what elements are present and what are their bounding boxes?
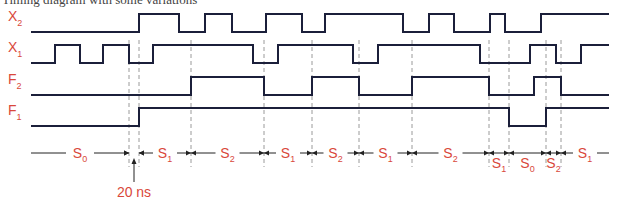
signal-trace-f1 [31, 108, 609, 126]
state-segment: S1 [561, 145, 609, 164]
arrowhead [139, 151, 144, 156]
signal-label-subscript: 2 [17, 18, 22, 28]
arrowhead [556, 151, 561, 156]
state-segment: S2 [191, 145, 264, 164]
timing-annotation: 20 ns [117, 151, 151, 201]
state-segment: S1 [264, 145, 312, 164]
timing-diagram: X2X1F2F1 S0S1S2S1S2S1S2S1S0S2S1 20 ns [0, 0, 629, 201]
arrowhead [407, 151, 412, 156]
state-segment: S1 [359, 145, 412, 164]
state-segment: S2 [312, 145, 359, 164]
state-label: S0 [73, 145, 87, 164]
signal-label-subscript: 1 [17, 112, 22, 122]
signal-label-subscript: 2 [17, 81, 22, 91]
arrowhead [312, 151, 317, 156]
signal-label: X1 [8, 39, 22, 59]
arrowhead [354, 151, 359, 156]
state-label-subscript: 1 [501, 164, 506, 174]
signal-trace-x1 [31, 45, 609, 63]
state-label: S2 [328, 145, 342, 164]
arrowhead [259, 151, 264, 156]
state-label: S1 [378, 145, 392, 164]
arrowhead [504, 151, 509, 156]
state-label: S1 [578, 145, 592, 164]
state-label: S1 [281, 145, 295, 164]
state-label: S0 [520, 155, 534, 174]
signal-trace-f2 [31, 77, 609, 95]
state-segment: S1 [139, 145, 191, 164]
arrowhead [412, 151, 417, 156]
state-label-subscript: 1 [290, 154, 295, 164]
state-label-subscript: 0 [530, 164, 535, 174]
arrowhead [561, 151, 566, 156]
state-label: S2 [443, 145, 457, 164]
signal-labels: X2X1F2F1 [8, 8, 22, 122]
guide-lines [129, 40, 561, 167]
state-segment: S2 [546, 151, 561, 175]
state-label: S2 [220, 145, 234, 164]
signal-trace-x2 [31, 14, 609, 32]
arrowhead [484, 151, 489, 156]
arrowhead [307, 151, 312, 156]
signal-label-subscript: 1 [17, 49, 22, 59]
arrowhead [541, 151, 546, 156]
annotation-label: 20 ns [117, 184, 151, 200]
annotation-arrowhead [132, 158, 137, 164]
state-label: S2 [546, 155, 560, 174]
signal-traces [31, 14, 609, 126]
state-label-subscript: 2 [556, 164, 561, 174]
signal-label: X2 [8, 8, 22, 28]
state-label-subscript: 1 [388, 154, 393, 164]
arrowhead [191, 151, 196, 156]
arrowhead [186, 151, 191, 156]
signal-label: F2 [8, 71, 22, 91]
state-row: S0S1S2S1S2S1S2S1S0S2S1 [31, 145, 609, 174]
state-segment: S1 [489, 151, 509, 175]
state-label-subscript: 2 [230, 154, 235, 164]
state-label-subscript: 1 [587, 154, 592, 164]
state-label-subscript: 2 [338, 154, 343, 164]
state-segment: S0 [509, 151, 546, 175]
arrowhead [124, 151, 129, 156]
state-label: S1 [158, 145, 172, 164]
state-label-subscript: 1 [167, 154, 172, 164]
arrowhead [359, 151, 364, 156]
arrowhead [509, 151, 514, 156]
state-segment: S2 [412, 145, 489, 164]
signal-label: F1 [8, 102, 22, 122]
state-label-subscript: 2 [453, 154, 458, 164]
state-segment: S0 [31, 145, 129, 164]
state-label: S1 [492, 155, 506, 174]
state-label-subscript: 0 [82, 154, 87, 164]
arrowhead [264, 151, 269, 156]
